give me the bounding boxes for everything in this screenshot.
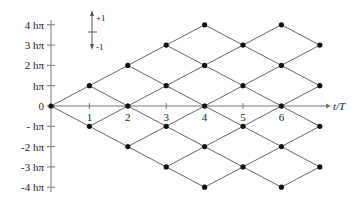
lattice-edge xyxy=(243,147,281,167)
lattice-edge xyxy=(281,25,319,45)
lattice-edge xyxy=(243,126,281,146)
lattice-edge xyxy=(166,45,204,65)
lattice-node xyxy=(240,124,245,129)
lattice-edge xyxy=(89,65,127,85)
lattice-edge xyxy=(205,167,243,187)
lattice-node xyxy=(279,144,284,149)
lattice-edge xyxy=(243,25,281,45)
lattice-edge xyxy=(166,147,204,167)
y-tick-label: 4 hπ xyxy=(25,19,45,31)
lattice-edge xyxy=(51,106,89,126)
x-tick-label: 4 xyxy=(202,111,208,123)
lattice-node xyxy=(240,43,245,48)
lattice-edge xyxy=(166,65,204,85)
lattice-edge xyxy=(89,126,127,146)
lattice-edge xyxy=(166,86,204,106)
lattice-node xyxy=(164,43,169,48)
lattice-node xyxy=(164,83,169,88)
lattice-node xyxy=(279,185,284,190)
lattice-node xyxy=(164,164,169,169)
lattice-edge xyxy=(281,126,319,146)
lattice-edge xyxy=(166,126,204,146)
lattice-edge xyxy=(281,147,319,167)
lattice-node xyxy=(240,83,245,88)
x-tick-label: 1 xyxy=(87,111,93,123)
x-axis-label: t/T xyxy=(333,100,346,112)
lattice-edge xyxy=(89,86,127,106)
lattice-node xyxy=(87,83,92,88)
lattice-node xyxy=(317,164,322,169)
lattice-edge xyxy=(128,65,166,85)
lattice-edge xyxy=(51,86,89,106)
y-tick-label: 3 hπ xyxy=(25,39,45,51)
lattice-edge xyxy=(128,106,166,126)
lattice-edge xyxy=(128,126,166,146)
y-tick-label: -2 hπ xyxy=(21,141,44,153)
lattice-edge xyxy=(166,25,204,45)
lattice-edge xyxy=(128,45,166,65)
y-tick-label: 2 hπ xyxy=(25,59,45,71)
legend-up-arrow-icon xyxy=(90,10,94,16)
lattice-edge xyxy=(205,147,243,167)
lattice-node xyxy=(87,124,92,129)
lattice-edge xyxy=(281,45,319,65)
lattice-edge xyxy=(243,65,281,85)
lattice-edge xyxy=(243,86,281,106)
lattice-edge xyxy=(205,45,243,65)
lattice-edge xyxy=(243,106,281,126)
lattice-edge xyxy=(128,147,166,167)
lattice-node xyxy=(317,83,322,88)
lattice-node xyxy=(317,43,322,48)
legend-down-label: -1 xyxy=(96,42,104,52)
phase-lattice-diagram: t/T 123456 4 hπ3 hπ2 hπhπ0- hπ-2 hπ-3 hπ… xyxy=(0,0,360,203)
lattice-edge xyxy=(281,106,319,126)
lattice-edge xyxy=(166,106,204,126)
lattice-edge xyxy=(243,167,281,187)
lattice-node xyxy=(279,63,284,68)
y-tick-label: hπ xyxy=(33,80,45,92)
lattice-node xyxy=(279,22,284,27)
lattice-node xyxy=(202,144,207,149)
x-tick-label: 2 xyxy=(125,111,131,123)
y-tick-label: 0 xyxy=(39,100,45,112)
lattice-node xyxy=(279,103,284,108)
x-tick-label: 3 xyxy=(163,111,169,123)
lattice-edge xyxy=(205,25,243,45)
lattice-edge xyxy=(205,86,243,106)
legend: +1 -1 xyxy=(88,10,106,52)
y-tick-label: -3 hπ xyxy=(21,161,44,173)
y-tick-label: -4 hπ xyxy=(21,181,44,193)
lattice-node xyxy=(202,22,207,27)
lattice-node xyxy=(202,103,207,108)
x-axis-arrow-icon xyxy=(326,104,331,109)
lattice-edge xyxy=(128,86,166,106)
lattice-edge xyxy=(205,106,243,126)
lattice-node xyxy=(317,124,322,129)
lattice-edge xyxy=(89,106,127,126)
lattice-edge xyxy=(281,65,319,85)
lattice-node xyxy=(125,103,130,108)
lattice-edge xyxy=(243,45,281,65)
lattice-edge xyxy=(281,86,319,106)
legend-up-label: +1 xyxy=(96,13,106,23)
lattice-node xyxy=(202,63,207,68)
lattice-edge xyxy=(166,167,204,187)
lattice-node xyxy=(240,164,245,169)
x-tick-label: 5 xyxy=(240,111,246,123)
lattice-edge xyxy=(281,167,319,187)
lattice-node xyxy=(125,63,130,68)
lattice-node xyxy=(125,144,130,149)
lattice-node xyxy=(48,103,53,108)
lattice-edge xyxy=(205,126,243,146)
lattice-node xyxy=(164,124,169,129)
lattice-edge xyxy=(205,65,243,85)
x-tick-label: 6 xyxy=(279,111,285,123)
legend-down-arrow-icon xyxy=(90,44,94,50)
lattice-node xyxy=(202,185,207,190)
y-tick-label: - hπ xyxy=(27,120,45,132)
